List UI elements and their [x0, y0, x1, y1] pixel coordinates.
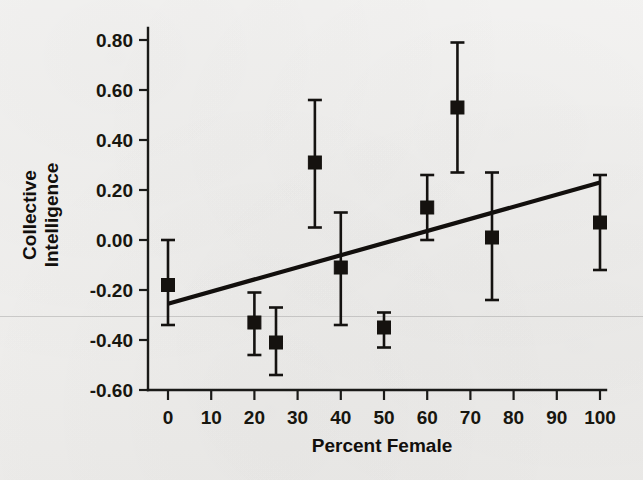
x-tick-label: 50: [373, 407, 394, 428]
data-point-marker: [486, 231, 499, 244]
data-point: [247, 293, 261, 356]
chart-figure: 0.800.600.400.200.00-0.20-0.40-0.60 0102…: [0, 0, 643, 480]
y-tick-label: -0.60: [90, 380, 133, 401]
data-point: [308, 100, 322, 228]
data-point-marker: [594, 216, 607, 229]
y-axis-title: Collective Intelligence: [19, 163, 62, 268]
y-axis-title-line2: Intelligence: [41, 163, 62, 268]
data-point: [485, 173, 499, 301]
y-axis-ticks: 0.800.600.400.200.00-0.20-0.40-0.60: [90, 30, 148, 401]
data-point: [450, 43, 464, 173]
y-tick-label: 0.60: [96, 80, 133, 101]
y-tick-label: -0.40: [90, 330, 133, 351]
regression-line: [168, 183, 600, 304]
data-point-marker: [270, 336, 283, 349]
scatter-plot-canvas: 0.800.600.400.200.00-0.20-0.40-0.60 0102…: [0, 0, 643, 480]
data-point: [377, 313, 391, 348]
x-tick-label: 10: [201, 407, 222, 428]
data-point-marker: [248, 316, 261, 329]
y-tick-label: 0.80: [96, 30, 133, 51]
data-point: [269, 308, 283, 376]
x-tick-label: 40: [330, 407, 351, 428]
data-point-marker: [334, 261, 347, 274]
x-tick-label: 70: [460, 407, 481, 428]
data-point-marker: [308, 156, 321, 169]
data-point-marker: [162, 279, 175, 292]
data-point: [593, 175, 607, 270]
data-point-marker: [378, 321, 391, 334]
x-tick-label: 0: [163, 407, 174, 428]
data-points-group: [161, 43, 607, 376]
y-tick-label: 0.00: [96, 230, 133, 251]
x-tick-label: 30: [287, 407, 308, 428]
y-tick-label: 0.40: [96, 130, 133, 151]
data-point-marker: [421, 201, 434, 214]
x-tick-label: 20: [244, 407, 265, 428]
y-tick-label: -0.20: [90, 280, 133, 301]
x-tick-label: 80: [503, 407, 524, 428]
data-point: [334, 213, 348, 326]
data-point-marker: [451, 101, 464, 114]
x-tick-label: 90: [546, 407, 567, 428]
data-point: [161, 240, 175, 325]
y-tick-label: 0.20: [96, 180, 133, 201]
x-tick-label: 60: [417, 407, 438, 428]
x-axis-ticks: 0102030405060708090100: [163, 390, 616, 428]
x-axis-title: Percent Female: [312, 435, 452, 456]
y-axis-title-line1: Collective: [19, 170, 40, 260]
regression-line-segment: [168, 183, 600, 304]
x-tick-label: 100: [584, 407, 616, 428]
